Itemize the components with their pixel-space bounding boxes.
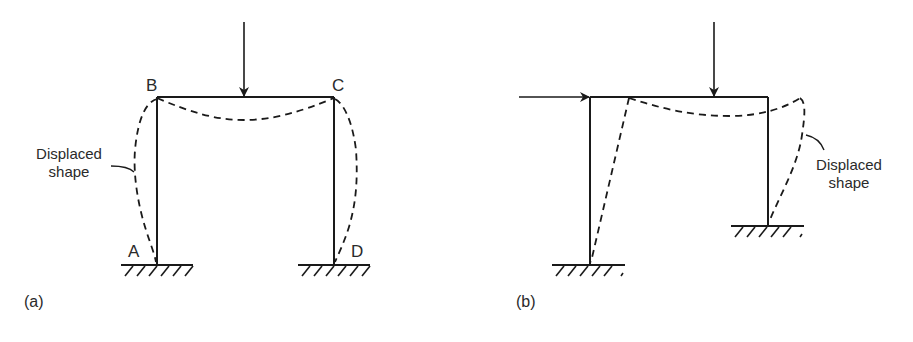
caption-b: (b) (516, 294, 536, 310)
node-label-a: A (128, 243, 139, 260)
frame-b-members (590, 97, 768, 264)
fixed-support-d-icon (298, 265, 370, 276)
annotation-line2: shape (803, 174, 895, 192)
annotation-line1: Displaced (22, 145, 116, 163)
displaced-shape-a (135, 98, 357, 262)
annotation-line2: shape (22, 163, 116, 181)
displaced-shape-label-b: Displaced shape (803, 156, 895, 192)
panel-b (519, 22, 824, 276)
node-label-c: C (332, 77, 344, 94)
frame-diagrams (0, 0, 913, 342)
fixed-support-right-icon (731, 226, 804, 237)
node-label-d: D (351, 243, 363, 260)
annotation-leader-b (806, 135, 824, 150)
fixed-support-left-icon (552, 265, 625, 276)
displaced-shape-label-a: Displaced shape (22, 145, 116, 181)
node-label-b: B (146, 77, 157, 94)
frame-a-members (157, 97, 334, 264)
caption-a: (a) (24, 294, 44, 310)
displaced-shape-b (591, 98, 804, 262)
fixed-support-a-icon (121, 265, 193, 276)
annotation-line1: Displaced (803, 156, 895, 174)
panel-a (111, 22, 370, 276)
